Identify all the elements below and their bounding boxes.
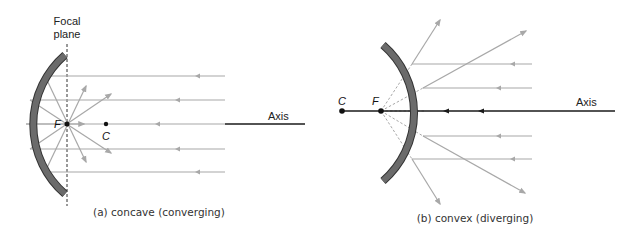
focal-plane-label-2: plane [54, 28, 81, 40]
axis-label-b: Axis [576, 96, 597, 108]
mirror-diagram: Focal plane F C Axis (a) concave (conver… [0, 0, 628, 240]
center-point-a [104, 122, 108, 126]
caption-a: (a) concave (converging) [93, 206, 225, 218]
center-point-b [339, 108, 345, 114]
focal-point-a [65, 122, 70, 127]
label-c-a: C [102, 130, 110, 142]
focal-plane-label: Focal [54, 15, 81, 27]
caption-b: (b) convex (diverging) [417, 212, 534, 224]
reflected-rays-b [412, 20, 526, 204]
panel-concave: Focal plane F C Axis (a) concave (conver… [26, 15, 305, 218]
panel-convex: C F Axis (b) convex (diverging) [338, 20, 615, 224]
label-f-b: F [372, 95, 380, 107]
label-c-b: C [338, 95, 346, 107]
focal-point-b [378, 108, 384, 114]
axis-label-a: Axis [268, 110, 289, 122]
